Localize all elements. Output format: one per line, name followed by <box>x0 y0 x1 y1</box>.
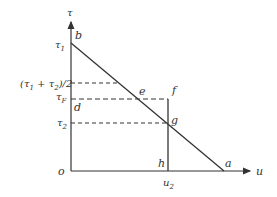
stress-displacement-diagram: τ u o τ1 (τ1 + τ2)/2 τF τ2 u2 b a d e f … <box>0 0 277 197</box>
point-b: b <box>75 29 82 42</box>
y-axis-label: τ <box>67 7 73 18</box>
point-a: a <box>225 157 232 170</box>
point-d: d <box>74 101 81 114</box>
tick-tauF: τF <box>56 91 68 105</box>
tick-mid: (τ1 + τ2)/2 <box>20 78 72 92</box>
point-f: f <box>171 84 178 97</box>
tick-u2: u2 <box>163 177 174 191</box>
point-e: e <box>139 85 146 98</box>
point-g: g <box>171 114 178 127</box>
line-b-a <box>71 43 224 171</box>
x-axis-label: u <box>256 165 263 178</box>
origin-label: o <box>58 165 65 178</box>
tick-tau2: τ2 <box>57 117 68 131</box>
tick-tau1: τ1 <box>55 39 65 53</box>
point-h: h <box>158 157 165 170</box>
